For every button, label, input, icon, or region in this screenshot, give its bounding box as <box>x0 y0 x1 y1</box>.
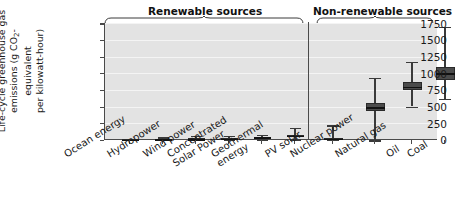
y-tick-label-500: 500 <box>349 102 447 113</box>
x-tick-mark-7 <box>374 140 375 144</box>
y-tick-label-250: 250 <box>349 119 447 130</box>
y-tick-label-1750: 1750 <box>349 19 447 30</box>
x-tick-mark-6 <box>332 140 333 144</box>
y-axis-title-subscript: 2 <box>13 33 21 37</box>
y-tick-mark-1000 <box>100 73 104 74</box>
boxplot-pv-solar <box>280 23 310 140</box>
y-tick-mark-500 <box>100 107 104 108</box>
y-tick-mark-0 <box>100 140 104 141</box>
y-axis-title-line-1: Life-cycle greenhouse gas <box>0 10 7 132</box>
y-tick-mark-750 <box>100 90 104 91</box>
y-tick-mark-1500 <box>100 40 104 41</box>
y-tick-label-750: 750 <box>349 85 447 96</box>
y-axis-title-line-2: emissions (g CO <box>8 37 19 113</box>
x-tick-mark-8 <box>411 140 412 144</box>
y-axis: Life-cycle greenhouse gas emissions (g C… <box>0 0 98 197</box>
y-tick-label-1250: 1250 <box>349 52 447 63</box>
x-tick-mark-9 <box>444 140 445 144</box>
y-tick-mark-1250 <box>100 57 104 58</box>
y-axis-title: Life-cycle greenhouse gas emissions (g C… <box>0 6 82 136</box>
y-axis-title-line-4: per kilowatt-hour) <box>34 29 45 113</box>
y-tick-label-1500: 1500 <box>349 35 447 46</box>
y-tick-mark-1750 <box>100 23 104 24</box>
y-tick-label-1000: 1000 <box>349 69 447 80</box>
